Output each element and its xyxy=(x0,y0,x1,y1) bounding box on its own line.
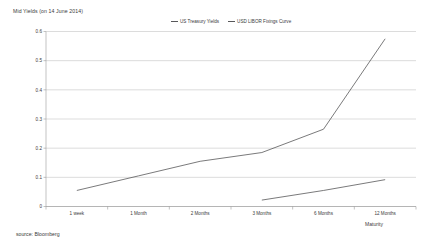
svg-text:3 Months: 3 Months xyxy=(252,211,272,216)
source-note: source: Bloomberg xyxy=(16,231,60,237)
legend-item-us-treasury-yields: US Treasury Yields xyxy=(171,19,219,24)
legend-label: US Treasury Yields xyxy=(180,19,219,24)
chart-title: Mid Yields (on 14 June 2014) xyxy=(13,8,83,14)
plot-area: 00.10.20.30.40.50.6 1 week1 Month2 Month… xyxy=(0,0,433,247)
svg-text:0.1: 0.1 xyxy=(36,175,43,180)
svg-text:1 week: 1 week xyxy=(70,211,85,216)
gridlines-group xyxy=(44,32,417,207)
svg-text:12 Months: 12 Months xyxy=(374,211,396,216)
y-axis-tick-labels: 00.10.20.30.40.50.6 xyxy=(36,29,43,209)
svg-text:2 Months: 2 Months xyxy=(191,211,211,216)
chart-legend: US Treasury Yields USD LIBOR Fixings Cur… xyxy=(171,19,291,24)
x-axis xyxy=(46,207,416,210)
svg-text:0.4: 0.4 xyxy=(36,88,43,93)
legend-swatch-icon xyxy=(171,21,178,22)
svg-text:0.6: 0.6 xyxy=(36,29,43,34)
svg-text:6 Months: 6 Months xyxy=(314,211,334,216)
svg-text:0: 0 xyxy=(39,204,42,209)
legend-item-usd-libor-fixings-curve: USD LIBOR Fixings Curve xyxy=(228,19,291,24)
x-axis-tick-labels: 1 week1 Month2 Months3 Months6 Months12 … xyxy=(70,211,397,216)
legend-swatch-icon xyxy=(228,21,235,22)
svg-text:0.5: 0.5 xyxy=(36,58,43,63)
series-group xyxy=(77,39,385,200)
chart-container: Mid Yields (on 14 June 2014) US Treasury… xyxy=(0,0,433,247)
svg-text:0.2: 0.2 xyxy=(36,146,43,151)
svg-text:1 Month: 1 Month xyxy=(130,211,147,216)
svg-text:0.3: 0.3 xyxy=(36,117,43,122)
x-axis-title: Maturity xyxy=(365,221,383,227)
legend-label: USD LIBOR Fixings Curve xyxy=(237,19,291,24)
